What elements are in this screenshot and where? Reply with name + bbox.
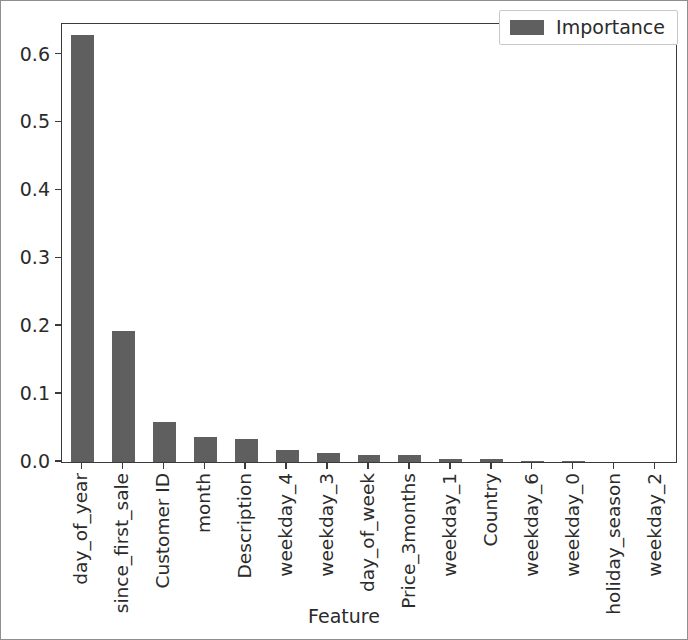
figure-canvas: 0.00.10.20.30.40.50.6 day_of_yearsince_f… <box>0 0 688 640</box>
x-tick-label: weekday_6 <box>520 369 541 473</box>
x-tick-label: weekday_1 <box>438 369 459 473</box>
y-tick-label: 0.6 <box>20 42 50 66</box>
x-tick-label-text: weekday_1 <box>438 473 459 577</box>
x-tick-label-text: weekday_4 <box>275 473 296 577</box>
y-tick-label: 0.4 <box>20 177 50 201</box>
x-tick-label: weekday_3 <box>316 369 337 473</box>
x-tick-label: Price_3months <box>397 337 418 473</box>
x-tick-label-text: day_of_week <box>357 473 378 592</box>
y-tick-mark <box>55 53 61 55</box>
x-tick-label-text: holiday_season <box>602 473 623 615</box>
x-tick-label-text: Country <box>479 473 500 547</box>
x-tick-label: Customer ID <box>152 358 173 473</box>
x-tick-label: month <box>193 413 214 473</box>
x-tick-label-text: day_of_year <box>70 473 91 585</box>
x-tick-label-text: since_first_sale <box>111 473 132 613</box>
x-tick-label: weekday_0 <box>561 369 582 473</box>
chart-legend: Importance <box>499 10 678 45</box>
x-tick-label-text: weekday_0 <box>561 473 582 577</box>
x-tick-label: since_first_sale <box>111 333 132 473</box>
x-tick-label-text: weekday_3 <box>316 473 337 577</box>
x-tick-label-text: Price_3months <box>397 473 418 609</box>
y-tick-label: 0.1 <box>20 381 50 405</box>
x-tick-label-text: weekday_2 <box>643 473 664 577</box>
y-tick-mark <box>55 460 61 462</box>
y-tick-mark <box>55 257 61 259</box>
y-tick-mark <box>55 392 61 394</box>
y-tick-label: 0.0 <box>20 449 50 473</box>
y-tick-mark <box>55 189 61 191</box>
y-tick-mark <box>55 324 61 326</box>
y-tick-mark <box>55 121 61 123</box>
x-tick-label: day_of_year <box>70 361 91 473</box>
legend-label-importance: Importance <box>556 18 665 37</box>
x-tick-label: Description <box>234 368 255 473</box>
x-tick-label: weekday_4 <box>275 369 296 473</box>
x-tick-label: Country <box>479 400 500 474</box>
x-tick-label: holiday_season <box>602 331 623 473</box>
x-tick-label-text: Customer ID <box>152 473 173 588</box>
y-tick-label: 0.2 <box>20 313 50 337</box>
x-axis-title: Feature <box>1 605 687 627</box>
y-tick-label: 0.5 <box>20 109 50 133</box>
x-tick-label: day_of_week <box>357 354 378 473</box>
y-tick-label: 0.3 <box>20 245 50 269</box>
legend-swatch-importance <box>510 20 544 35</box>
x-tick-label-text: Description <box>234 473 255 578</box>
x-tick-label-text: weekday_6 <box>520 473 541 577</box>
x-tick-label: weekday_2 <box>643 369 664 473</box>
x-tick-label-text: month <box>193 473 214 533</box>
